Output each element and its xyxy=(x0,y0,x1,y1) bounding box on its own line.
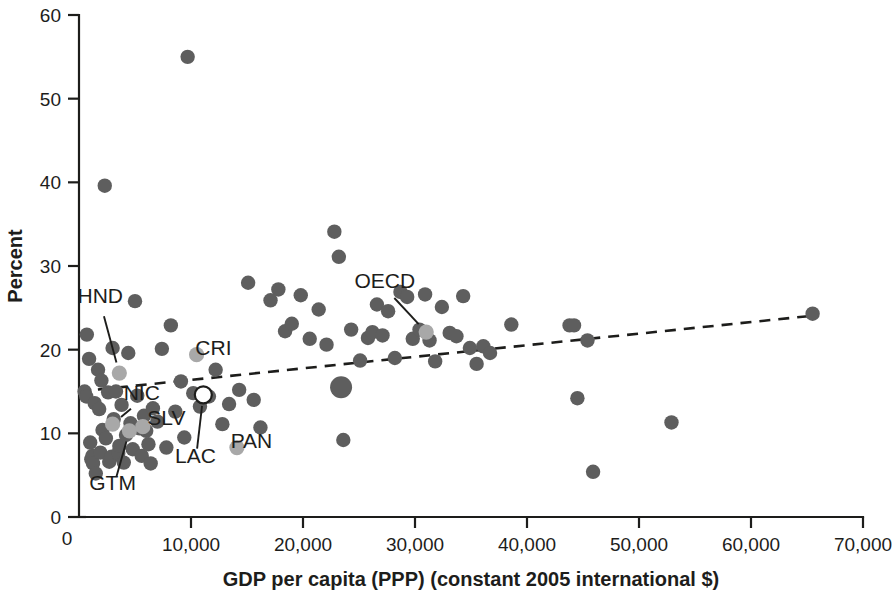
data-point xyxy=(99,431,113,445)
data-point xyxy=(570,391,584,405)
highlighted-point-oecd xyxy=(419,324,434,339)
annotation-label-gtm: GTM xyxy=(89,471,136,494)
data-point xyxy=(456,289,470,303)
annotation-label-slv: SLV xyxy=(147,406,185,429)
data-point xyxy=(174,374,188,388)
data-point xyxy=(463,341,477,355)
data-point xyxy=(504,317,518,331)
data-point xyxy=(344,322,358,336)
data-point xyxy=(381,304,395,318)
highlighted-point-lac xyxy=(195,386,212,403)
annotation-label-hnd: HND xyxy=(78,284,124,307)
annotation-label-nic: NIC xyxy=(124,381,160,404)
data-point xyxy=(128,294,142,308)
data-point xyxy=(208,363,222,377)
annotation-label-oecd: OECD xyxy=(354,269,415,292)
data-point xyxy=(435,300,449,314)
data-point xyxy=(143,456,157,470)
data-point xyxy=(567,318,581,332)
data-point xyxy=(294,288,308,302)
x-axis-title: GDP per capita (PPP) (constant 2005 inte… xyxy=(223,568,719,590)
data-point xyxy=(332,250,346,264)
x-tick-label-20000: 20,000 xyxy=(274,534,332,555)
x-tick-label-10000: 10,000 xyxy=(162,534,220,555)
data-point xyxy=(388,351,402,365)
data-point xyxy=(483,346,497,360)
data-point xyxy=(580,333,594,347)
x-tick-label-30000: 30,000 xyxy=(386,534,444,555)
data-point xyxy=(180,50,194,64)
data-point xyxy=(428,354,442,368)
data-point xyxy=(232,383,246,397)
x-tick-label-0: 0 xyxy=(62,528,73,549)
annotation-label-lac: LAC xyxy=(175,444,216,467)
plot-axes: 0102030405060010,00020,00030,00040,00050… xyxy=(40,5,892,555)
y-tick-label-50: 50 xyxy=(40,89,61,110)
x-tick-label-50000: 50,000 xyxy=(610,534,668,555)
annotation-label-cri: CRI xyxy=(195,336,231,359)
data-point xyxy=(155,342,169,356)
data-point xyxy=(159,440,173,454)
x-tick-label-40000: 40,000 xyxy=(498,534,556,555)
y-tick-label-60: 60 xyxy=(40,5,61,26)
data-point xyxy=(586,465,600,479)
annotation-label-pan: PAN xyxy=(231,429,273,452)
highlighted-point-nic xyxy=(105,417,120,432)
data-point-large xyxy=(330,376,352,398)
data-points xyxy=(77,50,819,481)
data-point xyxy=(353,353,367,367)
scatter-plot-canvas: 0102030405060010,00020,00030,00040,00050… xyxy=(0,0,894,597)
highlighted-point-hnd xyxy=(112,365,127,380)
data-point xyxy=(319,337,333,351)
data-point xyxy=(327,224,341,238)
data-point xyxy=(241,276,255,290)
data-point xyxy=(285,317,299,331)
data-point xyxy=(449,329,463,343)
data-point xyxy=(222,397,236,411)
y-axis-title: Percent xyxy=(4,229,26,303)
data-point xyxy=(336,433,350,447)
leader-line-hnd xyxy=(104,316,117,362)
data-point xyxy=(121,346,135,360)
data-point xyxy=(469,357,483,371)
x-tick-label-60000: 60,000 xyxy=(722,534,780,555)
data-point xyxy=(92,402,106,416)
data-point xyxy=(141,437,155,451)
chart-figure: 0102030405060010,00020,00030,00040,00050… xyxy=(0,0,894,597)
data-point xyxy=(400,290,414,304)
data-point xyxy=(664,415,678,429)
data-point xyxy=(215,417,229,431)
data-point xyxy=(805,306,819,320)
y-tick-label-10: 10 xyxy=(40,423,61,444)
data-point xyxy=(418,287,432,301)
highlighted-point-gtm xyxy=(122,423,137,438)
data-point xyxy=(303,332,317,346)
data-point xyxy=(177,430,191,444)
data-point xyxy=(271,282,285,296)
y-tick-label-30: 30 xyxy=(40,256,61,277)
data-point xyxy=(375,328,389,342)
data-point xyxy=(247,393,261,407)
data-point xyxy=(109,384,123,398)
x-tick-label-70000: 70,000 xyxy=(834,534,892,555)
data-point xyxy=(164,318,178,332)
y-tick-label-0: 0 xyxy=(50,507,61,528)
data-point xyxy=(311,302,325,316)
data-point xyxy=(98,178,112,192)
y-tick-label-40: 40 xyxy=(40,172,61,193)
data-point xyxy=(80,327,94,341)
y-tick-label-20: 20 xyxy=(40,340,61,361)
